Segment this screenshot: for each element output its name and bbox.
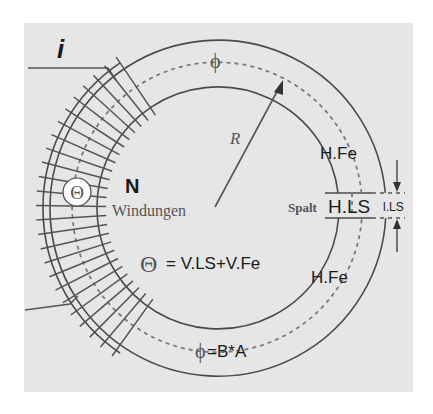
theta-symbol: Θ [70, 182, 84, 203]
h-fe-upper-label: H.Fe [320, 144, 357, 163]
h-fe-lower-label: H.Fe [311, 268, 348, 287]
current-label: i [57, 34, 65, 64]
mmf-equation-label: = V.LS+V.Fe [166, 254, 260, 273]
l-ls-label: l.LS [383, 200, 404, 214]
turns-word-label: Windungen [112, 202, 186, 220]
mmf-theta-symbol: Θ [140, 251, 157, 277]
gap-word-label: Spalt [288, 200, 318, 215]
turns-symbol-label: N [125, 175, 139, 197]
radius-label: R [229, 129, 241, 148]
flux-top-label: ϕ [210, 50, 221, 73]
magnetic-circuit-diagram: Θ i ϕ R H.Fe Spalt H.LS l.LS N Windungen… [0, 0, 433, 414]
h-ls-label: H.LS [328, 196, 370, 217]
flux-bottom-symbol: ϕ [195, 340, 206, 363]
flux-equation-label: =B*A [207, 342, 247, 361]
coil-turn [36, 206, 106, 207]
